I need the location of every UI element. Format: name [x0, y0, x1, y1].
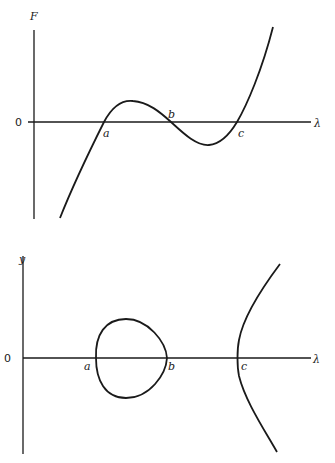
top-origin-label: 0 [15, 116, 22, 129]
top-plot: F 0 λ a b c [15, 10, 321, 219]
top-root-a-label: a [103, 127, 110, 140]
diagram: F 0 λ a b c y 0 λ a b c [0, 0, 335, 463]
top-root-c-label: c [238, 127, 244, 140]
bottom-plot: y 0 λ a b c [4, 253, 320, 454]
top-x-axis-label: λ [313, 117, 321, 130]
bottom-root-b-label: b [168, 360, 175, 373]
bottom-root-c-label: c [241, 360, 247, 373]
bottom-x-axis-label: λ [312, 353, 320, 366]
bottom-root-a-label: a [84, 360, 91, 373]
top-y-axis-label: F [29, 10, 38, 23]
bottom-y-axis-label: y [18, 253, 26, 266]
bottom-origin-label: 0 [4, 352, 11, 365]
top-root-b-label: b [168, 108, 175, 121]
